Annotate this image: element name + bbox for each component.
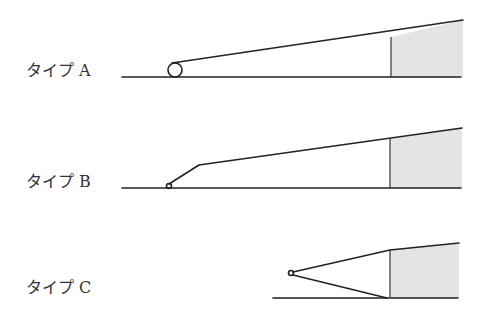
type-b-figure: タイプ B — [26, 128, 462, 191]
type-c-lower-edge — [293, 275, 387, 298]
type-a-label: タイプ A — [26, 61, 91, 80]
type-comparison-diagram: タイプ A タイプ B タイプ C — [0, 0, 486, 326]
type-c-figure: タイプ C — [26, 243, 459, 298]
type-b-hinge-icon — [167, 184, 172, 189]
type-c-label: タイプ C — [26, 278, 91, 297]
type-c-shaded-region — [390, 243, 459, 298]
type-a-hinge-icon — [168, 63, 182, 77]
type-a-figure: タイプ A — [26, 20, 463, 80]
type-b-label: タイプ B — [26, 172, 91, 191]
type-c-hinge-icon — [289, 271, 294, 276]
